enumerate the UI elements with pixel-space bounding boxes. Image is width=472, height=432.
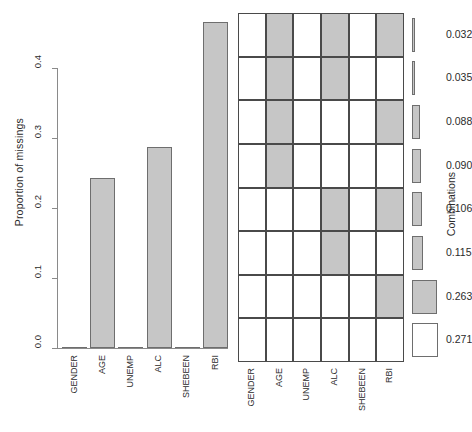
matrix-cell-shebeen-row4 [349,144,377,188]
legend-bar-0.271 [412,323,438,357]
bar-unemp [118,347,143,348]
matrix-cell-rbi-row5 [376,188,404,232]
bar-shebeen [175,347,200,348]
matrix-cell-unemp-row4 [293,144,321,188]
barplot-y-axis-label: Proportion of missings [14,118,25,226]
matrix-cell-alc-row4 [321,144,349,188]
legend-value-0.115: 0.115 [446,246,472,258]
matrix-cell-alc-row8 [321,318,349,362]
matrix-cell-gender-row6 [238,231,266,275]
matrix-cell-shebeen-row6 [349,231,377,275]
matrix-cell-shebeen-row7 [349,275,377,319]
matrix-cell-unemp-row1 [293,13,321,57]
legend-value-0.106: 0.106 [446,202,472,214]
barplot-y-axis-line [57,68,58,349]
barplot-y-tick [52,68,57,69]
matrix-cell-rbi-row6 [376,231,404,275]
legend-bar-0.115 [412,236,423,270]
matrix-cell-age-row3 [266,100,294,144]
barplot-x-label-alc: ALC [154,355,163,373]
combinations-matrix-panel: Combinations GENDERAGEUNEMPALCSHEBEENRBI… [230,0,459,432]
matrix-cell-age-row1 [266,13,294,57]
matrix-cell-unemp-row6 [293,231,321,275]
bar-age [90,178,115,348]
matrix-cell-alc-row3 [321,100,349,144]
matrix-cell-alc-row1 [321,13,349,57]
legend-bar-0.263 [412,280,437,314]
legend-value-0.271: 0.271 [446,333,472,345]
matrix-x-label-gender: GENDER [247,368,256,407]
matrix-cell-rbi-row1 [376,13,404,57]
matrix-cell-age-row2 [266,57,294,101]
barplot-y-tick [52,138,57,139]
matrix-cell-gender-row7 [238,275,266,319]
barplot-y-tick-label: 0.4 [33,55,43,68]
matrix-x-label-rbi: RBI [385,368,394,383]
matrix-cell-unemp-row8 [293,318,321,362]
matrix-x-label-unemp: UNEMP [302,368,311,401]
matrix-cell-unemp-row3 [293,100,321,144]
legend-value-0.088: 0.088 [446,115,472,127]
matrix-cell-shebeen-row1 [349,13,377,57]
legend-bar-0.035 [412,61,415,95]
matrix-cell-rbi-row7 [376,275,404,319]
barplot-y-tick-label: 0.1 [33,265,43,278]
legend-value-0.090: 0.090 [446,159,472,171]
matrix-cell-gender-row1 [238,13,266,57]
barplot-x-label-rbi: RBI [211,355,220,370]
legend-bar-0.088 [412,105,420,139]
matrix-cell-rbi-row8 [376,318,404,362]
barplot-y-tick-label: 0.0 [33,335,43,348]
legend-bar-0.090 [412,149,421,183]
matrix-cell-shebeen-row5 [349,188,377,232]
matrix-cell-gender-row4 [238,144,266,188]
matrix-cell-rbi-row2 [376,57,404,101]
matrix-cell-alc-row2 [321,57,349,101]
proportion-barplot-panel: Proportion of missings 0.00.10.20.30.4 G… [0,0,230,432]
matrix-cell-age-row4 [266,144,294,188]
barplot-y-tick-label: 0.2 [33,195,43,208]
barplot-baseline [57,348,228,349]
matrix-cell-unemp-row2 [293,57,321,101]
matrix-cell-gender-row5 [238,188,266,232]
barplot-x-label-shebeen: SHEBEEN [182,355,191,398]
legend-value-0.263: 0.263 [446,290,472,302]
matrix-x-label-age: AGE [275,368,284,387]
barplot-y-tick [52,278,57,279]
legend-value-0.032: 0.032 [446,28,472,40]
matrix-cell-unemp-row5 [293,188,321,232]
matrix-cell-alc-row7 [321,275,349,319]
bar-alc [147,147,172,348]
barplot-x-label-unemp: UNEMP [126,355,135,388]
matrix-cell-alc-row5 [321,188,349,232]
matrix-x-label-shebeen: SHEBEEN [358,368,367,411]
matrix-cell-unemp-row7 [293,275,321,319]
barplot-y-tick [52,208,57,209]
barplot-x-label-gender: GENDER [70,355,79,394]
matrix-cell-age-row5 [266,188,294,232]
barplot-y-tick-label: 0.3 [33,125,43,138]
bar-gender [62,347,87,348]
matrix-cell-shebeen-row8 [349,318,377,362]
barplot-x-label-age: AGE [98,355,107,374]
matrix-cell-age-row8 [266,318,294,362]
matrix-cell-age-row6 [266,231,294,275]
matrix-cell-gender-row3 [238,100,266,144]
matrix-cell-shebeen-row2 [349,57,377,101]
matrix-cell-age-row7 [266,275,294,319]
matrix-cell-shebeen-row3 [349,100,377,144]
legend-bar-0.106 [412,192,422,226]
legend-bar-0.032 [412,18,415,52]
bar-rbi [203,22,228,348]
matrix-cell-rbi-row4 [376,144,404,188]
matrix-cell-gender-row2 [238,57,266,101]
legend-value-0.035: 0.035 [446,71,472,83]
matrix-x-label-alc: ALC [330,368,339,386]
matrix-cell-gender-row8 [238,318,266,362]
barplot-y-tick [52,348,57,349]
matrix-cell-rbi-row3 [376,100,404,144]
matrix-cell-alc-row6 [321,231,349,275]
